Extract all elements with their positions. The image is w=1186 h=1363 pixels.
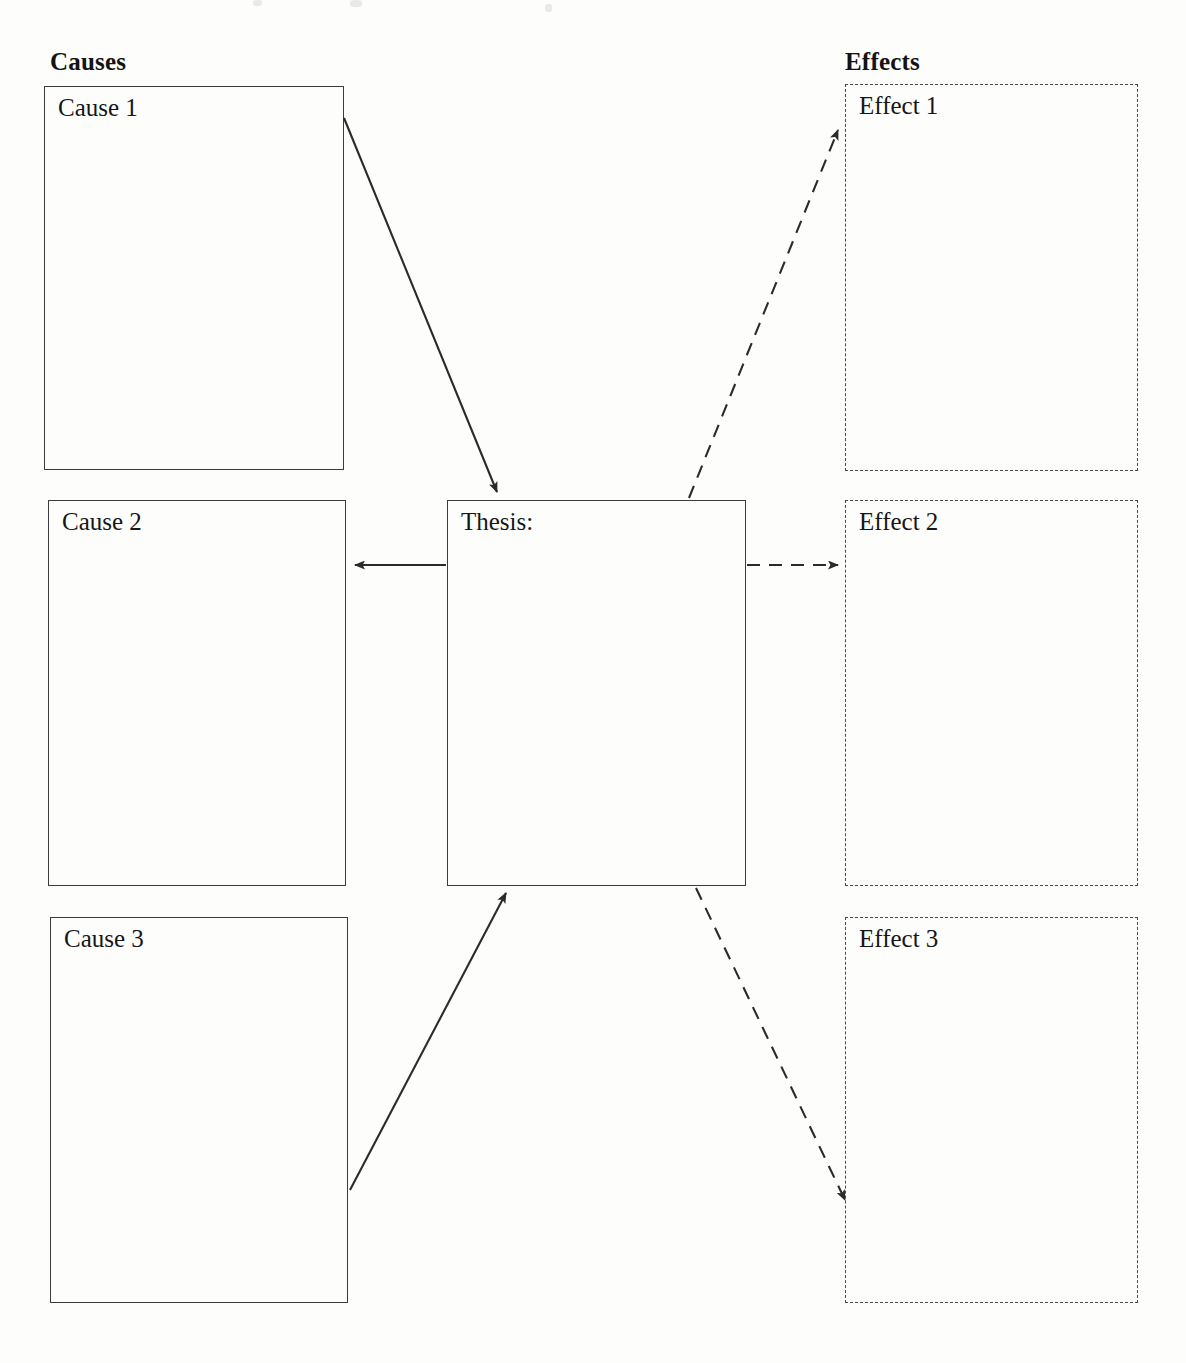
scan-artifact <box>253 0 262 6</box>
cause-2-box[interactable]: Cause 2 <box>48 500 346 886</box>
connector-thesis-to-effect-3 <box>696 888 845 1200</box>
cause-3-box[interactable]: Cause 3 <box>50 917 348 1303</box>
effects-column-heading: Effects <box>845 48 920 76</box>
cause-2-label: Cause 2 <box>62 508 142 536</box>
scan-artifact <box>545 4 552 12</box>
effect-3-label: Effect 3 <box>859 925 938 953</box>
effect-1-box[interactable]: Effect 1 <box>845 84 1138 471</box>
connector-cause-1-to-thesis <box>344 118 497 492</box>
cause-3-label: Cause 3 <box>64 925 144 953</box>
thesis-box[interactable]: Thesis: <box>447 500 746 886</box>
thesis-label: Thesis: <box>461 508 533 536</box>
worksheet-page: Causes Effects Cause 1 Cause 2 Cause 3 T… <box>0 0 1186 1363</box>
effect-2-box[interactable]: Effect 2 <box>845 500 1138 886</box>
connector-cause-3-to-thesis <box>350 893 506 1190</box>
effect-3-box[interactable]: Effect 3 <box>845 917 1138 1303</box>
causes-column-heading: Causes <box>50 48 126 76</box>
cause-1-label: Cause 1 <box>58 94 138 122</box>
cause-1-box[interactable]: Cause 1 <box>44 86 344 470</box>
scan-artifact <box>350 0 362 7</box>
effect-1-label: Effect 1 <box>859 92 938 120</box>
effect-2-label: Effect 2 <box>859 508 938 536</box>
connector-thesis-to-effect-1 <box>689 130 838 498</box>
